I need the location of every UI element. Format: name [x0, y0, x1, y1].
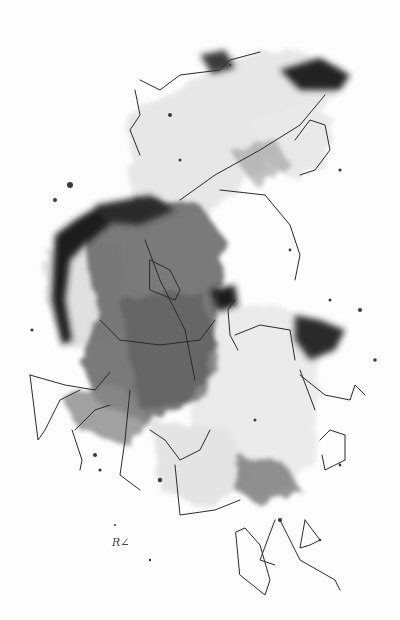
artist-signature: R∠	[112, 536, 130, 549]
artwork-canvas: R∠	[0, 0, 400, 620]
ink-painting	[0, 0, 400, 620]
